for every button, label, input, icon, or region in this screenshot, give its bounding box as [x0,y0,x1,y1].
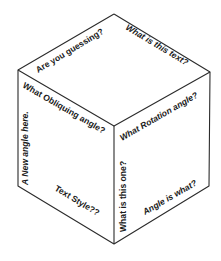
cube-diagram: Are you guessing? What is this text? Wha… [0,0,221,261]
label-a-new-angle-here: A New angle here. [20,111,30,186]
label-what-is-this-one: What is this one? [118,161,128,232]
